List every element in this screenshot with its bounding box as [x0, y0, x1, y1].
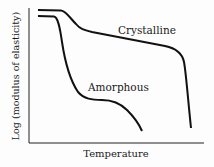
chart-svg: Crystalline Amorphous Temperature Log (m… [0, 0, 214, 167]
y-axis-label: Log (modulus of elasticity) [10, 12, 21, 140]
x-axis-label: Temperature [83, 148, 149, 159]
amorphous-label: Amorphous [87, 81, 149, 93]
crystalline-label: Crystalline [118, 24, 176, 36]
chart: Crystalline Amorphous Temperature Log (m… [0, 0, 214, 167]
